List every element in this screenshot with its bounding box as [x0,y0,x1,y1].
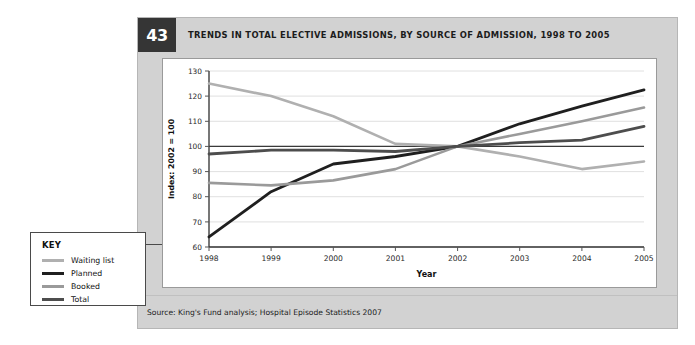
svg-text:2000: 2000 [324,254,343,263]
figure-source-note: Source: King's Fund analysis; Hospital E… [138,295,677,328]
legend-swatch-planned [42,272,64,275]
figure-number-badge: 43 [138,18,176,52]
figure-title: TRENDS IN TOTAL ELECTIVE ADMISSIONS, BY … [176,18,677,52]
chart-legend: KEY Waiting list Planned Booked Total [30,232,146,306]
svg-text:2002: 2002 [448,254,467,263]
y-axis-ticks: 60708090100110120130 [188,67,209,252]
svg-text:90: 90 [193,167,203,176]
legend-swatch-booked [42,285,64,288]
line-chart-svg: 60708090100110120130 1998199920002001200… [163,59,656,287]
svg-text:Index: 2002 = 100: Index: 2002 = 100 [167,118,176,199]
legend-item-booked[interactable]: Booked [42,280,145,293]
series-line-planned [209,90,644,237]
series-line-total [209,126,644,154]
svg-text:60: 60 [193,243,203,252]
key-connector-line [146,244,162,245]
chart-series [209,84,644,237]
legend-label-planned: Planned [71,269,102,278]
chart-plot-area: 60708090100110120130 1998199920002001200… [162,58,657,288]
svg-text:1998: 1998 [199,254,218,263]
svg-text:2001: 2001 [386,254,405,263]
svg-text:1999: 1999 [261,254,280,263]
legend-swatch-total [42,298,64,301]
svg-text:80: 80 [193,192,203,201]
legend-item-waiting-list[interactable]: Waiting list [42,254,145,267]
legend-title: KEY [42,240,145,250]
svg-text:120: 120 [188,92,202,101]
svg-text:2003: 2003 [510,254,529,263]
svg-text:130: 130 [188,67,202,76]
svg-text:2005: 2005 [634,254,653,263]
y-axis-label: Index: 2002 = 100 [167,118,176,199]
legend-label-waiting-list: Waiting list [71,256,114,265]
svg-text:70: 70 [193,218,203,227]
svg-text:2004: 2004 [572,254,591,263]
figure-panel: 43 TRENDS IN TOTAL ELECTIVE ADMISSIONS, … [137,17,678,329]
legend-swatch-waiting-list [42,259,64,262]
legend-label-total: Total [71,295,89,304]
x-axis-ticks: 19981999200020012002200320042005 [199,247,653,263]
figure-header: 43 TRENDS IN TOTAL ELECTIVE ADMISSIONS, … [138,18,677,52]
legend-item-total[interactable]: Total [42,293,145,306]
legend-item-planned[interactable]: Planned [42,267,145,280]
x-axis-label: Year [416,270,437,279]
svg-text:110: 110 [188,117,202,126]
legend-label-booked: Booked [71,282,100,291]
svg-text:100: 100 [188,142,202,151]
svg-text:Year: Year [416,270,437,279]
